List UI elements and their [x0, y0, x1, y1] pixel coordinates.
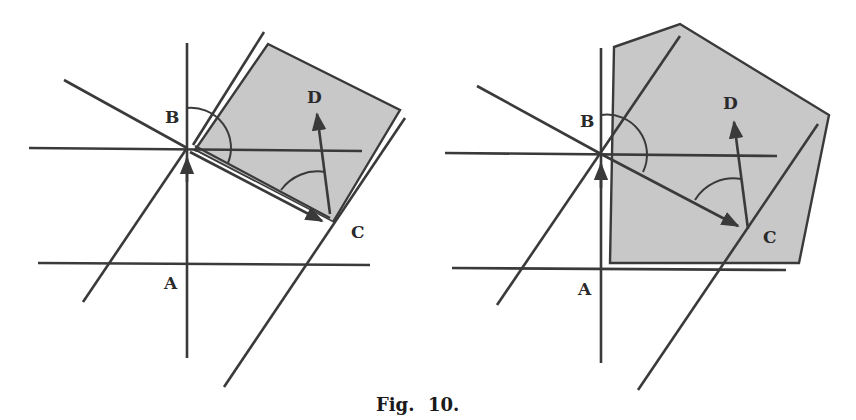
right-label-b: B	[580, 111, 594, 131]
right-shaded-region	[610, 24, 829, 263]
left-lower-horizontal-line	[38, 263, 370, 265]
left-panel: B D C A	[29, 32, 405, 387]
left-label-c: C	[351, 222, 365, 242]
figure-canvas: B D C A B D C A Fig. 10.	[0, 0, 856, 420]
right-lower-horizontal-line	[452, 268, 786, 270]
left-label-a: A	[163, 273, 178, 293]
left-label-b: B	[165, 107, 179, 127]
right-panel: B D C A	[445, 24, 829, 390]
right-label-d: D	[723, 93, 738, 113]
left-shaded-region	[195, 44, 400, 222]
figure-caption-prefix: Fig.	[376, 394, 414, 415]
right-label-c: C	[763, 227, 777, 247]
left-label-d: D	[307, 87, 322, 107]
right-label-a: A	[577, 279, 592, 299]
figure-caption-number: 10.	[428, 394, 459, 415]
